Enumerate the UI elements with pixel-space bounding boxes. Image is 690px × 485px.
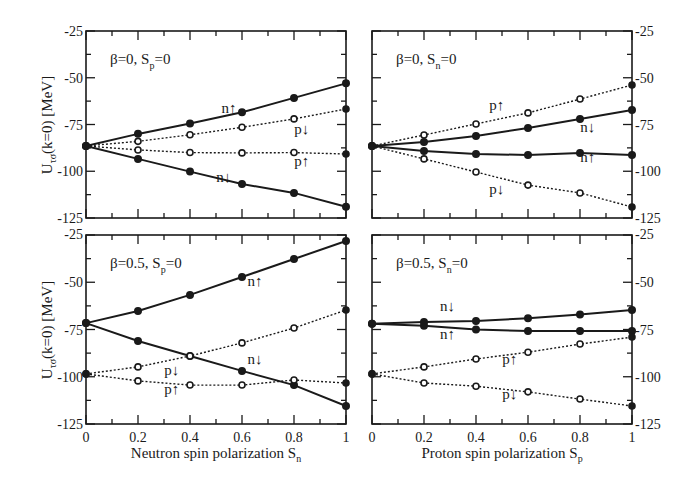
panel-bottom-left: -25-50-75-100-12500.20.40.60.81β=0.5, Sp… [57, 227, 349, 445]
y-tick-label: -25 [635, 227, 654, 242]
series-line-n↑ [86, 241, 346, 323]
panel-parameter-label: β=0, Sn=0 [396, 51, 456, 71]
data-point [291, 377, 297, 383]
x-tick-label: 0 [83, 430, 90, 445]
data-point [187, 292, 193, 298]
series-label: p↓ [294, 121, 309, 137]
y-tick-label: -75 [635, 323, 654, 338]
x-tick-label: 0.2 [415, 430, 433, 445]
y-tick-label: -100 [635, 370, 661, 385]
data-point [577, 396, 583, 402]
data-point [421, 148, 427, 154]
data-point [629, 403, 635, 409]
y-tick-label: -100 [57, 164, 83, 179]
y-tick-label: -25 [635, 24, 654, 39]
data-point [577, 311, 583, 317]
series-label: p↑ [489, 97, 504, 113]
series-line-p↑ [372, 85, 632, 146]
y-tick-label: -125 [635, 417, 661, 432]
data-point [239, 274, 245, 280]
y-tick-label: -125 [635, 211, 661, 226]
series-label: n↑ [440, 326, 455, 342]
x-tick-label: 0.4 [181, 430, 199, 445]
x-tick-label: 1 [629, 430, 636, 445]
data-point [629, 152, 635, 158]
data-point [239, 382, 245, 388]
data-point [629, 328, 635, 334]
y-tick-label: -125 [57, 417, 83, 432]
data-point [525, 349, 531, 355]
data-point [577, 341, 583, 347]
data-point [291, 325, 297, 331]
data-point [473, 356, 479, 362]
data-point [135, 338, 141, 344]
data-point [135, 378, 141, 384]
data-point [239, 368, 245, 374]
data-point [629, 82, 635, 88]
data-point [421, 139, 427, 145]
data-point [343, 106, 349, 112]
data-point [187, 168, 193, 174]
series-line-p↑ [86, 374, 346, 385]
data-point [187, 132, 193, 138]
series-label: p↑ [164, 381, 179, 397]
data-point [577, 96, 583, 102]
panel-bottom-right: -25-50-75-100-12500.20.40.60.81β=0.5, Sn… [369, 227, 661, 445]
data-point [369, 371, 375, 377]
x-tick-label: 1 [343, 430, 350, 445]
data-point [577, 190, 583, 196]
y-tick-label: -25 [64, 227, 83, 242]
data-point [421, 323, 427, 329]
x-tick-label: 0 [369, 430, 376, 445]
data-point [525, 315, 531, 321]
series-label: n↓ [216, 169, 231, 185]
data-point [629, 334, 635, 340]
data-point [135, 364, 141, 370]
x-tick-label: 0.8 [571, 430, 589, 445]
series-line-n↓ [372, 310, 632, 324]
data-point [369, 143, 375, 149]
data-point [135, 138, 141, 144]
data-point [239, 124, 245, 130]
data-point [239, 109, 245, 115]
series-label: n↑ [248, 273, 263, 289]
data-point [239, 150, 245, 156]
y-tick-label: -100 [635, 164, 661, 179]
data-point [473, 318, 479, 324]
panel-top-right: -25-50-75-100-125β=0, Sn=0p↑n↓n↑p↓ [369, 24, 661, 226]
y-tick-label: -125 [57, 211, 83, 226]
data-point [135, 308, 141, 314]
data-point [421, 364, 427, 370]
series-label: p↑ [502, 351, 517, 367]
data-point [525, 389, 531, 395]
panels-layer: -25-50-75-100-125β=0, Sp=0n↑p↓p↑n↓-25-50… [57, 24, 660, 445]
data-point [291, 95, 297, 101]
x-tick-label: 0.2 [129, 430, 147, 445]
y-tick-label: -50 [64, 275, 83, 290]
data-point [473, 133, 479, 139]
data-point [369, 321, 375, 327]
panel-top-left: -25-50-75-100-125β=0, Sp=0n↑p↓p↑n↓ [57, 24, 349, 226]
data-point [629, 204, 635, 210]
data-point [187, 150, 193, 156]
y-tick-label: -50 [64, 71, 83, 86]
data-point [473, 151, 479, 157]
data-point [343, 307, 349, 313]
data-point [83, 143, 89, 149]
data-point [629, 307, 635, 313]
series-label: n↓ [440, 298, 455, 314]
x-axis-label-left: Neutron spin polarization Sn [131, 445, 301, 464]
data-point [83, 371, 89, 377]
x-tick-label: 0.6 [519, 430, 537, 445]
data-point [343, 380, 349, 386]
y-tick-label: -75 [64, 118, 83, 133]
data-point [291, 190, 297, 196]
panel-parameter-label: β=0, Sp=0 [110, 51, 170, 71]
y-axis-label-bottom: Uτσ(k=0) [MeV] [39, 281, 58, 379]
y-axis-label-top: Uτσ(k=0) [MeV] [39, 76, 58, 174]
data-point [421, 156, 427, 162]
data-point [343, 403, 349, 409]
data-point [525, 328, 531, 334]
series-label: p↓ [502, 386, 517, 402]
y-tick-label: -25 [64, 24, 83, 39]
